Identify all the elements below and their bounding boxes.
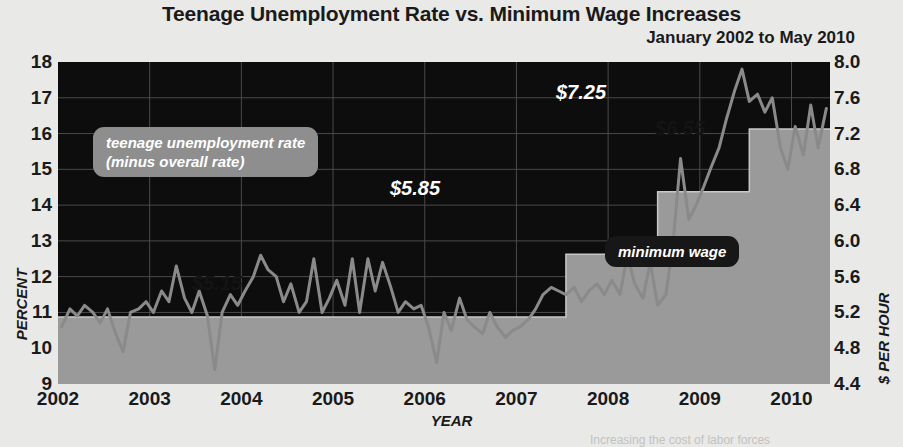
y-tick-right-7.2: 7.2	[834, 123, 886, 145]
chart-subtitle: January 2002 to May 2010	[646, 28, 855, 48]
x-tick-2009: 2009	[655, 388, 745, 410]
x-tick-2002: 2002	[13, 388, 103, 410]
unemployment-rate-label: teenage unemployment rate (minus overall…	[93, 127, 318, 177]
y-tick-left-15: 15	[6, 158, 52, 180]
wage-value-515: $5.15	[192, 272, 242, 295]
chart-figure: Teenage Unemployment Rate vs. Minimum Wa…	[0, 0, 903, 447]
y-tick-right-8.0: 8.0	[834, 51, 886, 73]
chart-title: Teenage Unemployment Rate vs. Minimum Wa…	[0, 2, 903, 26]
y-tick-left-16: 16	[6, 123, 52, 145]
x-tick-2006: 2006	[380, 388, 470, 410]
unemployment-label-line2: (minus overall rate)	[106, 152, 305, 171]
y-axis-right-title: $ PER HOUR	[875, 279, 892, 399]
y-tick-right-6.4: 6.4	[834, 194, 886, 216]
x-tick-2007: 2007	[471, 388, 561, 410]
y-tick-left-13: 13	[6, 230, 52, 252]
x-tick-2003: 2003	[105, 388, 195, 410]
y-tick-right-6.0: 6.0	[834, 230, 886, 252]
y-axis-left-title: PERCENT	[13, 260, 30, 350]
x-tick-2008: 2008	[563, 388, 653, 410]
chart-svg	[58, 62, 830, 384]
y-tick-left-18: 18	[6, 51, 52, 73]
unemployment-label-line1: teenage unemployment rate	[106, 133, 305, 152]
y-tick-left-14: 14	[6, 194, 52, 216]
wage-value-585: $5.85	[390, 177, 440, 200]
wage-value-655: $6.55	[655, 117, 705, 140]
plot-area	[58, 62, 830, 384]
x-tick-2005: 2005	[288, 388, 378, 410]
y-tick-left-17: 17	[6, 87, 52, 109]
wage-value-725: $7.25	[556, 81, 606, 104]
x-axis-title: YEAR	[0, 412, 903, 429]
footnote-text: Increasing the cost of labor forces	[590, 433, 770, 447]
y-tick-right-6.8: 6.8	[834, 158, 886, 180]
x-tick-2010: 2010	[746, 388, 836, 410]
y-tick-right-7.6: 7.6	[834, 87, 886, 109]
x-tick-2004: 2004	[196, 388, 286, 410]
minimum-wage-label: minimum wage	[605, 236, 739, 267]
